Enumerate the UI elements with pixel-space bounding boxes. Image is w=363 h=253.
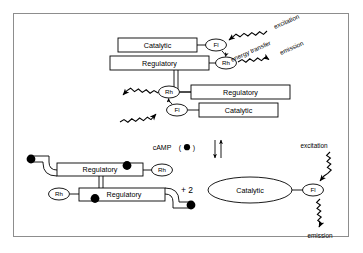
energy-transfer-arrow-lower <box>169 99 173 105</box>
excitation-label-bottom: excitation <box>301 142 328 149</box>
plus-two-label: + 2 <box>181 185 193 195</box>
dimer-rh-right-label: Rh <box>158 166 166 173</box>
camp-symbol-dot <box>184 144 190 150</box>
camp-label: cAMP <box>153 144 172 151</box>
emission-wave-lower <box>123 88 158 95</box>
top-rh-label: Rh <box>222 59 230 66</box>
emission-label-bottom: emission <box>307 232 333 239</box>
excitation-wave-bottom <box>320 152 331 181</box>
excitation-label-top: excitation <box>273 12 301 30</box>
camp-dot-upper-left <box>27 155 36 164</box>
diagram-canvas: Catalytic Fl Regulatory Rh excitation en… <box>0 0 363 253</box>
dimer-rh-left-label: Rh <box>55 190 63 197</box>
camp-close-paren: ) <box>193 144 195 152</box>
dimer-bottom-regulatory-label: Regulatory <box>107 190 142 199</box>
bottom-regulatory-label: Regulatory <box>223 88 258 97</box>
bottom-rh-label: Rh <box>165 88 173 95</box>
diagram-artwork: Catalytic Fl Regulatory Rh excitation en… <box>0 0 363 253</box>
dimer-top-left-arm <box>33 156 57 170</box>
top-catalytic-label: Catalytic <box>144 41 172 50</box>
bottom-fl-label: Fl <box>174 106 179 113</box>
emission-wave-bottom <box>317 199 322 227</box>
free-fl-label: Fl <box>310 186 315 193</box>
top-fl-label: Fl <box>213 41 218 48</box>
camp-dot-upper-right <box>123 161 132 170</box>
bottom-catalytic-label: Catalytic <box>225 106 253 115</box>
camp-dot-lower-left <box>91 194 100 203</box>
energy-transfer-arrow <box>222 51 226 57</box>
free-catalytic-label: Catalytic <box>236 186 264 195</box>
emission-label-top: emission <box>279 39 305 56</box>
excitation-wave-lower <box>120 114 156 122</box>
excitation-wave-top <box>229 31 267 40</box>
top-regulatory-label: Regulatory <box>142 59 177 68</box>
camp-open-paren: ( <box>179 144 182 152</box>
camp-dot-lower-right <box>187 201 196 210</box>
dimer-bottom-right-arm <box>165 194 189 208</box>
dimer-top-regulatory-label: Regulatory <box>83 165 118 174</box>
